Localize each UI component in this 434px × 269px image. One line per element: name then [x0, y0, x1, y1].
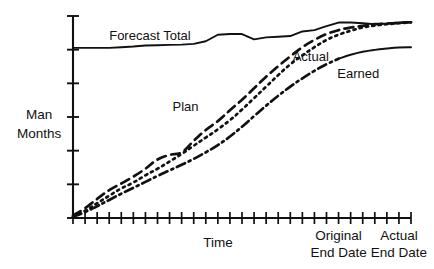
- series-label-plan: Plan: [173, 99, 199, 114]
- chart-figure: Forecast Total Plan Actual Earned Man Mo…: [0, 0, 434, 269]
- series-label-actual: Actual: [293, 49, 329, 64]
- series-annotations: Forecast Total Plan Actual Earned: [109, 28, 379, 114]
- original-end-date-label-line1: Original: [315, 228, 362, 243]
- series-label-forecast-total: Forecast Total: [109, 28, 191, 43]
- actual-end-date-label-line2: End Date: [371, 245, 427, 260]
- actual-end-date-label-line1: Actual: [380, 228, 418, 243]
- chart-svg: Forecast Total Plan Actual Earned Man Mo…: [0, 0, 434, 269]
- series-label-earned: Earned: [337, 66, 379, 81]
- original-end-date-label-line2: End Date: [310, 245, 366, 260]
- series-line-earned-tail: [339, 47, 411, 59]
- y-axis-title-line1: Man: [26, 107, 52, 122]
- chart-series-group: [73, 22, 411, 216]
- y-axis-title-line2: Months: [17, 126, 62, 141]
- x-axis-title: Time: [203, 235, 233, 250]
